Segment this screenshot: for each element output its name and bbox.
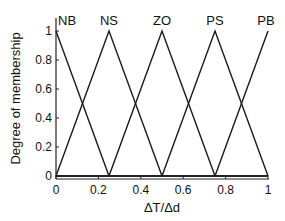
set-label-zo: ZO [153, 13, 171, 28]
x-tick-label: 0.6 [175, 183, 192, 197]
x-tick-label: 0.2 [90, 183, 107, 197]
x-tick-label: 0 [53, 183, 60, 197]
x-axis-title: ΔT/Δd [144, 200, 180, 215]
set-label-ns: NS [100, 13, 118, 28]
y-axis-title: Degree of membership [8, 32, 23, 164]
y-tick-label: 0 [45, 169, 52, 183]
x-tick-label: 1 [265, 183, 272, 197]
membership-ps [162, 31, 268, 176]
x-tick-label: 0.8 [217, 183, 234, 197]
y-tick-label: 0.4 [35, 111, 52, 125]
set-label-pb: PB [257, 13, 274, 28]
axes: 00.20.40.60.8100.20.40.60.81 [35, 18, 271, 197]
y-tick-label: 0.2 [35, 140, 52, 154]
membership-function-chart: 00.20.40.60.8100.20.40.60.81 NBNSZOPSPB … [0, 0, 285, 221]
y-tick-label: 0.6 [35, 82, 52, 96]
series-lines [56, 31, 268, 176]
set-label-ps: PS [206, 13, 224, 28]
y-tick-label: 1 [45, 24, 52, 38]
set-labels: NBNSZOPSPB [58, 13, 275, 28]
y-tick-label: 0.8 [35, 53, 52, 67]
membership-zo [109, 31, 215, 176]
set-label-nb: NB [58, 13, 76, 28]
x-tick-label: 0.4 [132, 183, 149, 197]
membership-ns [56, 31, 162, 176]
